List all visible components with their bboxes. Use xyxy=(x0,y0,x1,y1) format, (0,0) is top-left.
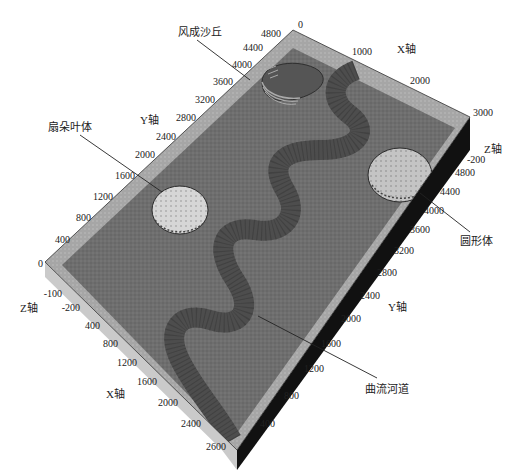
svg-text:1200: 1200 xyxy=(304,363,324,374)
svg-text:4400: 4400 xyxy=(440,186,460,197)
svg-text:3000: 3000 xyxy=(473,107,493,118)
svg-text:-100: -100 xyxy=(44,288,62,299)
svg-text:800: 800 xyxy=(76,212,91,223)
annotation-circular-body: 圆形体 xyxy=(420,193,493,248)
svg-text:0: 0 xyxy=(298,19,303,30)
svg-text:曲流河道: 曲流河道 xyxy=(365,382,409,396)
svg-text:3600: 3600 xyxy=(213,76,233,87)
y-axis-label-right: Y轴 xyxy=(388,300,407,313)
z-axis-label-left: Z轴 xyxy=(20,301,38,314)
svg-text:0: 0 xyxy=(38,258,43,269)
svg-text:2600: 2600 xyxy=(206,441,226,452)
svg-text:400: 400 xyxy=(85,320,100,331)
svg-text:1200: 1200 xyxy=(117,357,137,368)
svg-text:2400: 2400 xyxy=(181,418,201,429)
svg-text:3200: 3200 xyxy=(195,94,215,105)
x-axis-label-top: X轴 xyxy=(397,42,416,55)
geological-block-model-figure: 0 1000 2000 3000 X轴 4800 4400 4000 3600 … xyxy=(0,0,516,471)
svg-text:3200: 3200 xyxy=(394,245,414,256)
svg-text:2000: 2000 xyxy=(135,149,155,160)
fan-lobe xyxy=(152,186,208,234)
svg-text:1000: 1000 xyxy=(352,46,372,57)
svg-text:2400: 2400 xyxy=(156,131,176,142)
svg-text:2000: 2000 xyxy=(158,397,178,408)
svg-text:1600: 1600 xyxy=(321,338,341,349)
svg-text:圆形体: 圆形体 xyxy=(460,234,493,248)
svg-text:扇朵叶体: 扇朵叶体 xyxy=(48,120,92,134)
svg-text:4800: 4800 xyxy=(455,167,475,178)
z-axis-label-right: Z轴 xyxy=(484,142,502,155)
svg-text:-200: -200 xyxy=(467,154,485,165)
annotation-dune: 风成沙丘 xyxy=(178,26,250,80)
svg-text:4400: 4400 xyxy=(243,42,263,53)
x-axis-label-left: X轴 xyxy=(106,387,125,400)
svg-text:4800: 4800 xyxy=(261,28,281,39)
svg-text:2800: 2800 xyxy=(176,112,196,123)
svg-text:2000: 2000 xyxy=(341,313,361,324)
svg-text:2800: 2800 xyxy=(377,267,397,278)
svg-text:1600: 1600 xyxy=(137,376,157,387)
svg-text:风成沙丘: 风成沙丘 xyxy=(178,26,222,39)
svg-text:400: 400 xyxy=(55,234,70,245)
svg-text:800: 800 xyxy=(284,390,299,401)
svg-text:2000: 2000 xyxy=(410,75,430,86)
svg-text:-200: -200 xyxy=(62,302,80,313)
svg-text:3600: 3600 xyxy=(410,224,430,235)
y-axis-label-left: Y轴 xyxy=(140,113,159,126)
svg-text:4000: 4000 xyxy=(424,205,444,216)
svg-text:2400: 2400 xyxy=(360,290,380,301)
svg-text:400: 400 xyxy=(260,418,275,429)
svg-text:1200: 1200 xyxy=(93,191,113,202)
svg-text:800: 800 xyxy=(103,338,118,349)
